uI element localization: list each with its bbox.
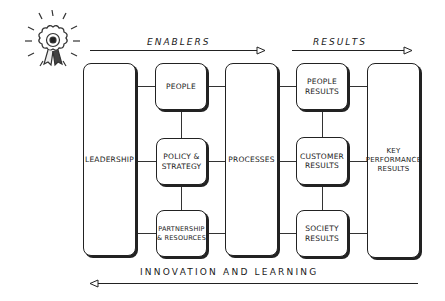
connector: [181, 185, 182, 210]
connector: [207, 233, 226, 234]
key-performance-results-box: KEY PERFORMANCE RESULTS: [367, 63, 420, 258]
innovation-learning-arrow: [97, 283, 418, 284]
connector: [207, 86, 226, 87]
connector: [278, 161, 297, 162]
key-performance-results-label: KEY PERFORMANCE RESULTS: [366, 147, 421, 173]
connector: [136, 161, 156, 162]
results-arrowhead-icon: [404, 46, 414, 55]
policy-strategy-label: POLICY & STRATEGY: [162, 152, 202, 171]
enablers-arrow: [90, 50, 260, 51]
connector: [278, 86, 297, 87]
connector: [348, 233, 368, 234]
innovation-learning-arrowhead-icon: [90, 279, 100, 288]
results-label: RESULTS: [313, 37, 367, 47]
connector: [181, 110, 182, 138]
people-results-box: PEOPLE RESULTS: [296, 63, 348, 110]
society-results-label: SOCIETY RESULTS: [305, 224, 339, 243]
customer-results-label: CUSTOMER RESULTS: [300, 152, 344, 171]
people-label: PEOPLE: [166, 82, 196, 91]
enablers-arrowhead-icon: [257, 46, 267, 55]
leadership-label: LEADERSHIP: [85, 155, 134, 164]
connector: [136, 233, 156, 234]
people-box: PEOPLE: [155, 63, 207, 110]
innovation-learning-label: INNOVATION AND LEARNING: [140, 267, 318, 277]
processes-box: PROCESSES: [225, 63, 278, 256]
customer-results-box: CUSTOMER RESULTS: [296, 137, 348, 185]
connector: [207, 161, 226, 162]
enablers-label: ENABLERS: [147, 37, 210, 47]
connector: [278, 233, 297, 234]
results-arrow: [292, 50, 408, 51]
society-results-box: SOCIETY RESULTS: [296, 210, 348, 257]
leadership-box: LEADERSHIP: [83, 63, 136, 256]
processes-label: PROCESSES: [228, 155, 274, 164]
people-results-label: PEOPLE RESULTS: [305, 77, 339, 96]
connector: [136, 86, 156, 87]
connector: [322, 110, 323, 137]
connector: [348, 86, 368, 87]
partnership-resources-box: PARTNERSHIP & RESOURCES: [156, 210, 207, 257]
connector: [322, 185, 323, 210]
policy-strategy-box: POLICY & STRATEGY: [156, 138, 207, 185]
partnership-resources-label: PARTNERSHIP & RESOURCES: [157, 225, 206, 241]
